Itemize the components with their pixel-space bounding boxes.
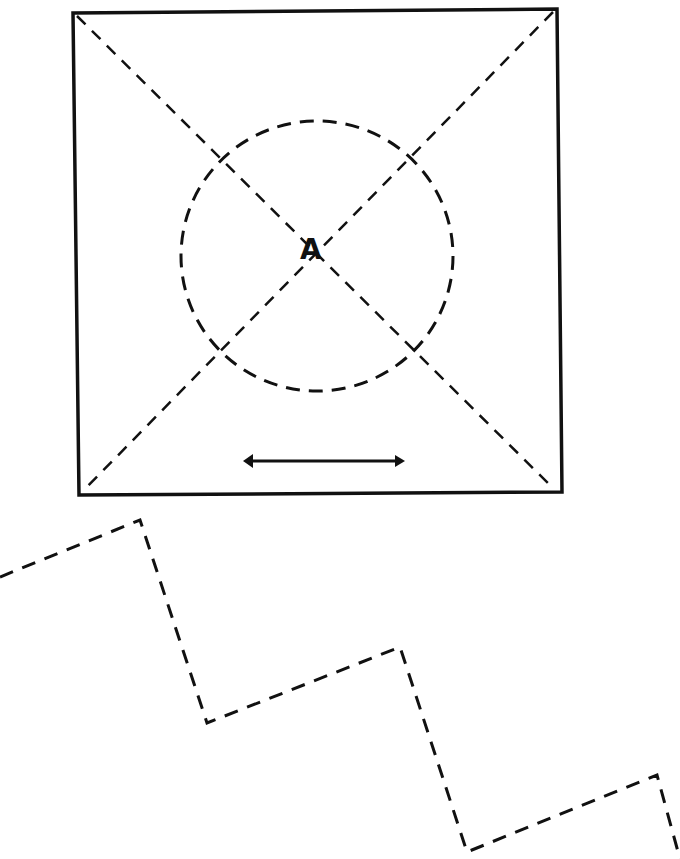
dashed-zigzag-line bbox=[0, 520, 680, 859]
diagram-canvas bbox=[0, 0, 680, 859]
double-arrow-icon bbox=[243, 454, 405, 468]
center-label: A bbox=[300, 236, 322, 264]
